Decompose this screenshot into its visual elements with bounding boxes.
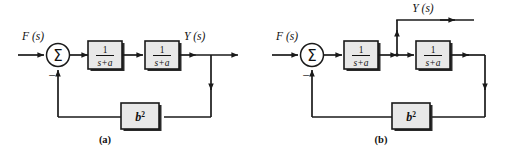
block-diagram-svg: F (s) Σ − 1 s+a 1 s+: [0, 0, 507, 153]
denominator-a1: s+a: [98, 58, 113, 68]
numerator-a1: 1: [103, 45, 108, 55]
figure-canvas: F (s) Σ − 1 s+a 1 s+: [0, 0, 507, 153]
numerator-a2: 1: [160, 45, 165, 55]
transfer-function-block-2-b: 1 s+a: [416, 41, 453, 71]
denominator-b2: s+a: [426, 58, 441, 68]
input-label-a: F (s): [21, 30, 44, 43]
transfer-function-block-1-a: 1 s+a: [88, 41, 125, 71]
feedback-gain-block-a: b2: [121, 103, 162, 131]
negative-sign-a: −: [48, 68, 55, 83]
transfer-function-block-2-a: 1 s+a: [145, 41, 182, 71]
input-label-b: F (s): [275, 30, 298, 43]
numerator-b2: 1: [431, 45, 436, 55]
denominator-a2: s+a: [155, 58, 170, 68]
panel-caption-a: (a): [99, 134, 112, 146]
negative-sign-b: −: [302, 68, 309, 83]
panel-a: F (s) Σ − 1 s+a 1 s+: [18, 30, 238, 146]
denominator-b1: s+a: [354, 58, 369, 68]
sigma-symbol-a: Σ: [53, 47, 62, 65]
numerator-b1: 1: [359, 45, 364, 55]
output-label-b: Y (s): [412, 2, 434, 15]
sigma-symbol-b: Σ: [307, 47, 316, 65]
feedback-gain-block-b: b2: [392, 103, 433, 131]
transfer-function-block-1-b: 1 s+a: [344, 41, 381, 71]
panel-b: F (s) Σ − 1 s+a: [272, 2, 485, 146]
output-label-a: Y (s): [184, 30, 206, 43]
panel-caption-b: (b): [375, 134, 388, 146]
